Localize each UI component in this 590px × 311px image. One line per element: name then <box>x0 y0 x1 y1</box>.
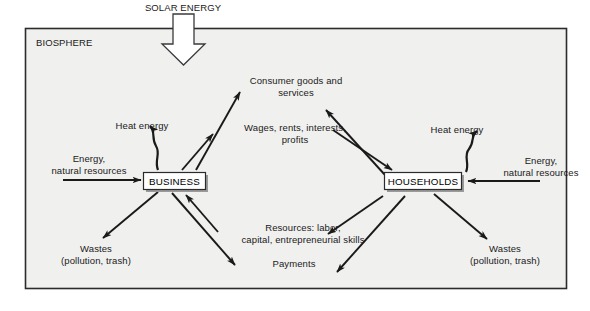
flow-label-wages: Wages, rents, interests, profits <box>200 122 390 145</box>
inputs-label-business: Energy, natural resources <box>29 153 149 176</box>
households-label: HOUSEHOLDS <box>384 176 462 187</box>
wastes-label-business: Wastes (pollution, trash) <box>36 243 156 266</box>
heat-energy-label-business: Heat energy <box>97 120 187 132</box>
flow-label-payments: Payments <box>234 258 354 270</box>
biosphere-label: BIOSPHERE <box>36 37 126 49</box>
flow-label-consumer-goods: Consumer goods and services <box>211 75 381 98</box>
business-label: BUSINESS <box>143 176 206 187</box>
wastes-label-households: Wastes (pollution, trash) <box>445 243 565 266</box>
heat-energy-label-households: Heat energy <box>412 124 502 136</box>
flow-label-resources: Resources: labor, capital, entrepreneuri… <box>213 222 393 245</box>
inputs-label-households: Energy, natural resources <box>481 155 590 178</box>
solar-energy-label: SOLAR ENERGY <box>113 2 253 14</box>
diagram-canvas: SOLAR ENERGY BIOSPHERE Consumer goods an… <box>0 0 590 311</box>
